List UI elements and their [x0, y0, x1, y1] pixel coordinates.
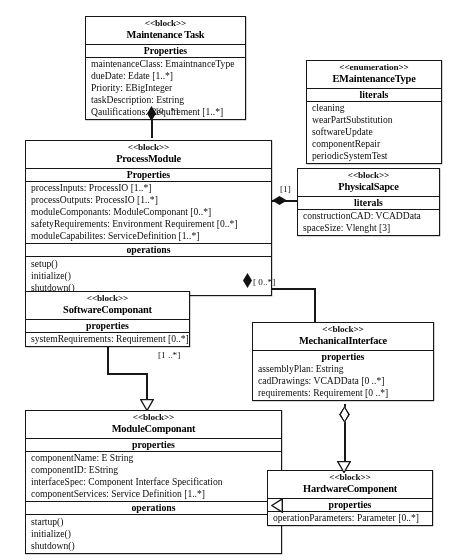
block-software-componant[interactable]: <<block>> SoftwareComponant properties s…	[25, 291, 190, 347]
multiplicity-task-processmodule: [0 ..*]	[156, 106, 178, 116]
compartment-title: Properties	[86, 45, 245, 58]
feature-item: moduleCapabilites: ServiceDefinition [1.…	[26, 230, 271, 242]
feature-list: constructionCAD: VCADData spaceSize: Vle…	[298, 210, 439, 236]
stereotype-label: <<block>>	[28, 293, 187, 304]
block-mechanical-interface[interactable]: <<block>> MechanicalInterface properties…	[252, 322, 434, 401]
uml-diagram-canvas: [0 ..*] [1] [ 0..*] [1 ..*]	[0, 0, 456, 560]
edge-software-modulecomponant-h	[107, 373, 147, 375]
stereotype-label: <<block>>	[28, 142, 269, 153]
generalization-arrow-modulecomponant-right	[271, 498, 282, 512]
compartment-properties: properties componentName: E String compo…	[26, 439, 281, 503]
generalization-arrow-modulecomponant-top	[140, 399, 154, 410]
feature-item: taskDescription: Estring	[86, 94, 245, 106]
feature-item: systemRequirements: Requirement [0..*]	[26, 333, 189, 345]
stereotype-label: <<enumeration>>	[309, 62, 439, 73]
feature-item: interfaceSpec: Component Interface Speci…	[26, 476, 281, 488]
block-header-hardware-component: <<block>> HardwareComponent	[268, 471, 432, 499]
compartment-title: operations	[26, 244, 271, 257]
block-hardware-component[interactable]: <<block>> HardwareComponent properties o…	[267, 470, 433, 526]
feature-list: cleaning wearPartSubstitution softwareUp…	[307, 102, 441, 164]
edge-processmodule-mechanical-v2	[314, 288, 316, 323]
block-name-label: MechanicalInterface	[255, 335, 431, 348]
block-header-software-componant: <<block>> SoftwareComponant	[26, 292, 189, 320]
block-name-label: PhysicalSapce	[300, 181, 437, 194]
block-name-label: HardwareComponent	[270, 483, 430, 496]
feature-item: Priority: EBigInteger	[86, 82, 245, 94]
compartment-title: properties	[26, 439, 281, 452]
feature-item: softwareUpdate	[307, 126, 441, 138]
compartment-title: Properties	[26, 169, 271, 182]
compartment-title: properties	[253, 351, 433, 363]
block-header-process-module: <<block>> ProcessModule	[26, 141, 271, 169]
block-name-label: SoftwareComponant	[28, 304, 187, 317]
compartment-literals: literals constructionCAD: VCADData space…	[298, 197, 439, 236]
feature-item: spaceSize: Vlenght [3]	[298, 222, 439, 234]
compartment-properties: properties systemRequirements: Requireme…	[26, 320, 189, 347]
compartment-properties: properties operationParameters: Paramete…	[268, 499, 432, 526]
compartment-title: literals	[307, 89, 441, 102]
multiplicity-processmodule-physicalspace: [1]	[280, 184, 291, 194]
feature-item: cadDrawings: VCADData [0 ..*]	[253, 375, 433, 387]
block-header-physical-space: <<block>> PhysicalSapce	[298, 169, 439, 197]
feature-list: operationParameters: Parameter [0..*]	[268, 512, 432, 526]
feature-item: periodicSystemTest	[307, 150, 441, 162]
feature-item: startup()	[26, 516, 281, 528]
feature-list: setup() initialize() shutdown()	[26, 257, 271, 295]
block-header-mechanical-interface: <<block>> MechanicalInterface	[253, 323, 433, 351]
feature-item: operationParameters: Parameter [0..*]	[268, 512, 432, 524]
compartment-properties: properties assemblyPlan: Estring cadDraw…	[253, 351, 433, 401]
feature-item: assemblyPlan: Estring	[253, 363, 433, 375]
stereotype-label: <<block>>	[28, 412, 279, 423]
aggregation-diamond-mechanical-hardware	[339, 406, 350, 423]
stereotype-label: <<block>>	[270, 472, 430, 483]
compartment-properties: Properties processInputs: ProcessIO [1..…	[26, 169, 271, 245]
feature-item: constructionCAD: VCADData	[298, 210, 439, 222]
feature-list: componentName: E String componentID: ESt…	[26, 452, 281, 502]
block-physical-space[interactable]: <<block>> PhysicalSapce literals constru…	[297, 168, 440, 236]
feature-item: componentID: EString	[26, 464, 281, 476]
feature-list: systemRequirements: Requirement [0..*]	[26, 333, 189, 347]
block-header-module-componant: <<block>> ModuleComponant	[26, 411, 281, 439]
feature-item: cleaning	[307, 102, 441, 114]
stereotype-label: <<block>>	[300, 170, 437, 181]
stereotype-label: <<block>>	[88, 18, 243, 29]
block-name-label: ProcessModule	[28, 153, 269, 166]
edge-software-modulecomponant-v2	[146, 373, 148, 400]
block-maintenance-task[interactable]: <<block>> Maintenance Task Properties ma…	[85, 16, 246, 120]
block-process-module[interactable]: <<block>> ProcessModule Properties proce…	[25, 140, 272, 296]
feature-item: dueDate: Edate [1..*]	[86, 70, 245, 82]
feature-list: processInputs: ProcessIO [1..*] processO…	[26, 182, 271, 244]
block-name-label: EMaintenanceType	[309, 73, 439, 86]
feature-item: componentServices: Service Definition [1…	[26, 488, 281, 500]
feature-item: componentName: E String	[26, 452, 281, 464]
feature-list: assemblyPlan: Estring cadDrawings: VCADD…	[253, 363, 433, 401]
composition-diamond-processmodule-physicalspace	[272, 196, 287, 205]
compartment-title: properties	[268, 499, 432, 512]
generalization-arrow-hardware-top	[337, 461, 351, 472]
feature-item: processOutputs: ProcessIO [1..*]	[26, 194, 271, 206]
edge-software-modulecomponant-v1	[107, 347, 109, 374]
feature-item: initialize()	[26, 528, 281, 540]
block-name-label: Maintenance Task	[88, 29, 243, 42]
multiplicity-processmodule-mechanical: [ 0..*]	[253, 277, 275, 287]
feature-item: shutdown()	[26, 540, 281, 552]
block-module-componant[interactable]: <<block>> ModuleComponant properties com…	[25, 410, 282, 554]
multiplicity-software-modulecomponant: [1 ..*]	[158, 350, 180, 360]
feature-item: moduleComponants: ModuleComponant [0..*]	[26, 206, 271, 218]
feature-item: maintenanceClass: EmaintnanceType	[86, 58, 245, 70]
feature-item: wearPartSubstitution	[307, 114, 441, 126]
feature-list: startup() initialize() shutdown()	[26, 515, 281, 553]
compartment-operations: operations startup() initialize() shutdo…	[26, 502, 281, 553]
compartment-literals: literals cleaning wearPartSubstitution s…	[307, 89, 441, 164]
compartment-operations: operations setup() initialize() shutdown…	[26, 244, 271, 295]
feature-item: setup()	[26, 258, 271, 270]
block-header-emaintenance-type: <<enumeration>> EMaintenanceType	[307, 61, 441, 89]
compartment-title: properties	[26, 320, 189, 333]
compartment-title: literals	[298, 197, 439, 210]
feature-item: initialize()	[26, 270, 271, 282]
block-name-label: ModuleComponant	[28, 423, 279, 436]
feature-item: safetyRequirements: Environment Requirem…	[26, 218, 271, 230]
block-header-maintenance-task: <<block>> Maintenance Task	[86, 17, 245, 45]
block-emaintenance-type[interactable]: <<enumeration>> EMaintenanceType literal…	[306, 60, 442, 164]
compartment-title: operations	[26, 502, 281, 515]
